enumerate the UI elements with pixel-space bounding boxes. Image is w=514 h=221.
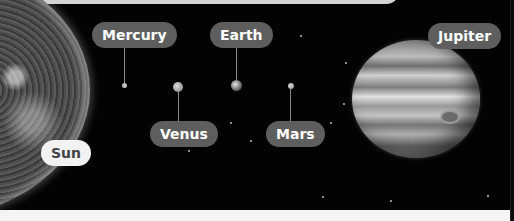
star — [300, 35, 302, 37]
leader-line-mercury — [124, 48, 125, 84]
top-bar — [0, 0, 400, 4]
star — [487, 195, 489, 197]
leader-line-earth — [236, 48, 237, 80]
planet-mercury — [122, 83, 127, 88]
star — [345, 62, 347, 64]
star — [330, 122, 332, 124]
label-mars: Mars — [266, 121, 325, 147]
bottom-strip — [0, 210, 510, 221]
sun-rim-glow — [0, 0, 90, 220]
planet-venus — [173, 82, 183, 92]
planet-earth — [231, 80, 242, 91]
planet-mars — [288, 83, 294, 89]
star — [322, 196, 324, 198]
star — [188, 150, 190, 152]
star — [230, 122, 232, 124]
jupiter-great-red-spot — [440, 110, 460, 124]
label-jupiter: Jupiter — [428, 23, 501, 49]
label-earth: Earth — [210, 22, 273, 48]
star — [250, 140, 252, 142]
label-sun: Sun — [41, 140, 91, 166]
leader-line-mars — [290, 89, 291, 122]
label-venus: Venus — [150, 121, 218, 147]
star — [343, 103, 345, 105]
label-mercury: Mercury — [92, 22, 177, 48]
planet-jupiter — [352, 40, 480, 158]
star — [390, 200, 392, 202]
solar-system-scene: Mercury Venus Earth Mars Jupiter Sun — [0, 0, 514, 221]
leader-line-venus — [178, 92, 179, 122]
right-edge — [510, 0, 514, 221]
